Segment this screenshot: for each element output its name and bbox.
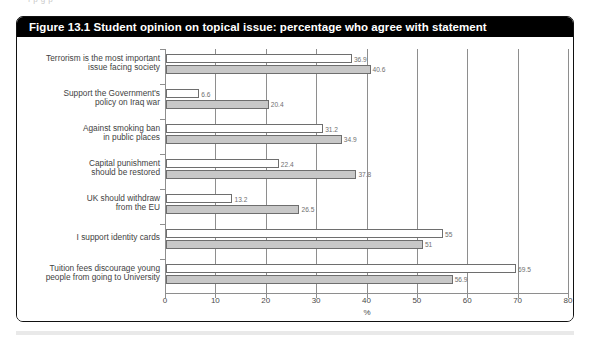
bar-group: Support the Government'spolicy on Iraq w… [165,84,569,119]
bar-value-label: 36.9 [354,55,367,62]
x-tick-label-30: 30 [312,296,321,305]
bar-group: Capital punishmentshould be restored22.4… [165,154,569,189]
bar-males: 56.9 [166,275,453,284]
bar-males: 40.6 [166,65,371,74]
chart-legend: MalesFemales [17,321,573,322]
bar-group: I support identity cards5551 [165,224,569,259]
bar-females: 55 [166,229,443,238]
bar-chart: Terrorism is the most importantissue fac… [17,37,573,321]
category-label: Capital punishmentshould be restored [89,159,160,178]
plot-area: Terrorism is the most importantissue fac… [165,49,569,294]
category-label-line: should be restored [89,168,160,178]
legend-label: Males [262,321,283,322]
bar-females: 31.2 [166,124,323,133]
bar-females: 6.6 [166,89,199,98]
page-root: f p g p Figure 13.1 Student opinion on t… [0,0,589,338]
x-tick-label-0: 0 [163,296,167,305]
bar-value-label: 34.9 [344,136,357,143]
bar-males: 37.8 [166,170,356,179]
page-bottom-bleed [16,331,574,335]
category-label: UK should withdrawfrom the EU [87,194,160,213]
figure-title: Figure 13.1 Student opinion on topical i… [29,21,487,33]
x-tick-label-60: 60 [463,296,472,305]
category-label-line: issue facing society [46,63,160,73]
category-label: Support the Government'spolicy on Iraq w… [63,89,160,108]
bar-value-label: 31.2 [325,125,338,132]
bar-females: 69.5 [166,264,516,273]
category-label: Against smoking banin public places [83,124,160,143]
bar-females: 22.4 [166,159,279,168]
category-label-line: from the EU [87,203,160,213]
category-label-line: I support identity cards [77,233,160,243]
category-label-line: policy on Iraq war [63,98,160,108]
bar-group: UK should withdrawfrom the EU13.226.5 [165,189,569,224]
legend-item-females: Females [297,321,339,322]
category-label: Tuition fees discourage youngpeople from… [46,264,160,283]
x-tick-label-40: 40 [362,296,371,305]
bar-females: 36.9 [166,54,352,63]
x-tick-label-70: 70 [513,296,522,305]
bar-value-label: 22.4 [281,160,294,167]
x-axis-title: % [165,308,569,317]
bar-value-label: 37.8 [358,171,371,178]
bar-value-label: 13.2 [234,195,247,202]
bar-value-label: 20.4 [271,101,284,108]
bar-group: Terrorism is the most importantissue fac… [165,49,569,84]
category-label-line: in public places [83,133,160,143]
bar-group: Tuition fees discourage youngpeople from… [165,259,569,294]
legend-label: Females [308,321,339,322]
x-tick-label-50: 50 [412,296,421,305]
legend-item-males: Males [251,321,283,322]
bar-group: Against smoking banin public places31.23… [165,119,569,154]
bar-value-label: 26.5 [301,206,314,213]
bar-value-label: 56.9 [455,276,468,283]
x-tick-label-10: 10 [211,296,220,305]
bar-value-label: 51 [425,241,432,248]
bar-value-label: 55 [445,230,452,237]
figure-title-bar: Figure 13.1 Student opinion on topical i… [17,17,573,37]
bar-males: 51 [166,240,423,249]
category-label: Terrorism is the most importantissue fac… [46,54,160,73]
category-label: I support identity cards [77,233,160,243]
bar-value-label: 40.6 [373,66,386,73]
x-tick-label-80: 80 [564,296,573,305]
x-tick-label-20: 20 [261,296,270,305]
page-top-bleed-text: f p g p [28,0,228,9]
figure-container: Figure 13.1 Student opinion on topical i… [16,16,574,322]
bar-females: 13.2 [166,194,232,203]
figure-body: Terrorism is the most importantissue fac… [17,37,573,321]
bar-value-label: 6.6 [201,90,210,97]
bar-value-label: 69.5 [518,265,531,272]
category-label-line: people from going to University [46,273,160,283]
bar-males: 20.4 [166,100,269,109]
bar-males: 26.5 [166,205,299,214]
bar-males: 34.9 [166,135,342,144]
